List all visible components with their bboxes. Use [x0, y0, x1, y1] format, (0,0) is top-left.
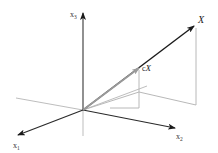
floor-diagonal: [83, 92, 139, 110]
x3-label: x3: [70, 10, 77, 20]
x2-negative-axis-line: [83, 86, 147, 110]
vectors: [83, 26, 194, 110]
x2-label: x2: [176, 132, 183, 142]
vector-cX: [83, 68, 139, 110]
x1-negative-axis-line: [16, 98, 83, 110]
vector-diagram: x3 x1 x2 X cX: [0, 0, 218, 153]
X-floor-projection: [139, 92, 196, 105]
cX-label: cX: [142, 63, 152, 73]
x1-label: x1: [13, 141, 20, 151]
x1-axis: [18, 110, 83, 135]
X-label: X: [197, 14, 205, 25]
axes: [18, 13, 175, 135]
x2-axis: [83, 110, 175, 128]
